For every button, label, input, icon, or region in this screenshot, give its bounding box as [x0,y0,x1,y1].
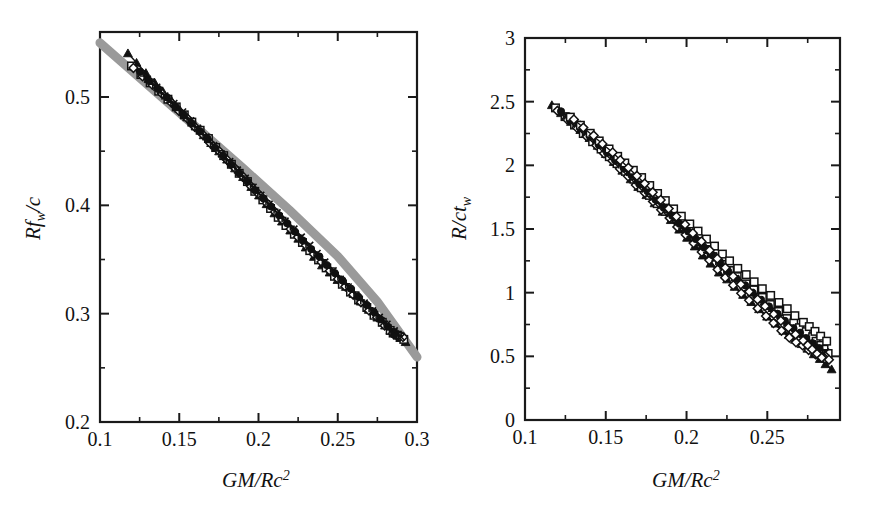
x-tick-label: 0.1 [513,426,538,448]
data-point-open-square [742,271,749,278]
data-point-open-square [734,265,741,272]
y-tick-label: 1 [505,282,515,304]
data-point-open-square [791,312,798,319]
x-axis-title: GM/Rc2 [652,468,720,492]
data-point-open-square [750,278,757,285]
x-axis-title: GM/Rc2 [222,468,290,492]
data-point-filled-triangle [124,49,133,57]
y-tick-label: 0.5 [490,345,515,367]
x-tick-label: 0.2 [674,426,699,448]
data-point-open-square [783,305,790,312]
data-point-filled-circle [136,68,143,75]
data-point-open-square [823,337,830,344]
y-tick-label: 0.3 [65,303,90,325]
series-eos-G [567,113,831,345]
x-tick-label: 0.15 [588,426,623,448]
x-tick-label: 0.25 [320,428,355,450]
y-tick-label: 1.5 [490,218,515,240]
y-tick-label: 0 [505,409,515,431]
y-axis-title: R/ctw [447,196,474,241]
y-axis-title: Rfw/c [21,196,48,241]
series-eos-H [569,115,826,362]
y-tick-label: 0.2 [65,411,90,433]
figure-root: 0.10.150.20.250.30.20.30.40.5GM/Rc2Rfw/c… [0,0,877,508]
y-tick-label: 2 [505,154,515,176]
x-tick-label: 0.1 [88,428,113,450]
left-plot-svg: 0.10.150.20.250.30.20.30.40.5GM/Rc2Rfw/c [0,0,440,508]
chart-panel-right: 0.10.150.20.2500.511.522.53GM/Rc2R/ctw [440,0,877,508]
x-tick-label: 0.25 [750,426,785,448]
x-tick-label: 0.15 [162,428,197,450]
x-tick-label: 0.2 [246,428,271,450]
data-point-open-square [759,285,766,292]
right-plot-svg: 0.10.150.20.2500.511.522.53GM/Rc2R/ctw [440,0,877,508]
data-point-open-square [767,292,774,299]
data-point-open-square [775,299,782,306]
x-tick-label: 0.3 [405,428,430,450]
data-point-open-square [726,257,733,264]
y-tick-label: 0.4 [65,194,90,216]
y-tick-label: 2.5 [490,91,515,113]
y-tick-label: 0.5 [65,86,90,108]
chart-panel-left: 0.10.150.20.250.30.20.30.40.5GM/Rc2Rfw/c [0,0,440,508]
y-tick-label: 3 [505,27,515,49]
